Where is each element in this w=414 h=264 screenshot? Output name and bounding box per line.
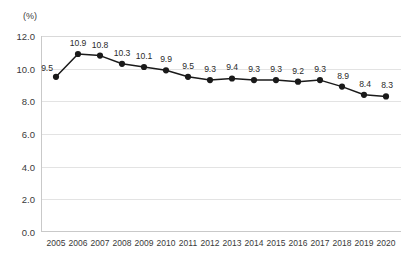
x-tick-label: 2016 [289,238,308,248]
data-point-label: 9.3 [204,64,216,74]
data-point-label: 9.3 [314,64,326,74]
y-tick-label: 6.0 [1,129,35,140]
data-point-label: 10.1 [136,51,152,61]
data-point-label: 10.8 [92,40,108,50]
data-point-label: 9.3 [270,64,282,74]
y-tick-label: 8.0 [1,96,35,107]
y-axis-unit-label: (%) [23,11,37,21]
x-tick-label: 2018 [333,238,352,248]
gridline [42,199,401,200]
gridline [42,36,401,37]
x-tick-label: 2013 [223,238,242,248]
x-tick-label: 2012 [201,238,220,248]
y-tick-label: 0.0 [1,227,35,238]
data-point-label: 9.4 [226,62,238,72]
gridline [42,167,401,168]
x-tick-label: 2014 [245,238,264,248]
data-point-label: 8.4 [359,79,371,89]
x-tick-label: 2020 [377,238,396,248]
x-tick-label: 2015 [267,238,286,248]
x-tick-label: 2006 [69,238,88,248]
data-point-label: 9.5 [182,61,194,71]
data-point-label: 10.3 [114,48,130,58]
x-tick-label: 2007 [91,238,110,248]
x-tick-label: 2011 [179,238,197,248]
y-tick-label: 2.0 [1,194,35,205]
x-tick-label: 2019 [355,238,374,248]
gridline [42,134,401,135]
data-point-label: 9.3 [248,64,260,74]
x-tick-label: 2009 [135,238,154,248]
chart-container: (%) 12.010.08.06.04.02.00.0 200520062007… [0,0,414,264]
x-tick-label: 2017 [311,238,330,248]
gridline [42,69,401,70]
data-point-label: 8.9 [337,71,349,81]
data-point-label: 8.3 [381,80,393,90]
x-tick-label: 2010 [157,238,176,248]
x-tick-label: 2008 [113,238,132,248]
data-point-label: 10.9 [70,38,86,48]
plot-area [41,36,401,232]
y-tick-label: 10.0 [1,63,35,74]
data-point-label: 9.2 [292,66,304,76]
y-tick-label: 12.0 [1,31,35,42]
data-point-label: 9.9 [160,54,172,64]
x-tick-label: 2005 [47,238,66,248]
y-tick-label: 4.0 [1,161,35,172]
gridline [42,101,401,102]
data-point-label: 9.5 [41,63,53,73]
